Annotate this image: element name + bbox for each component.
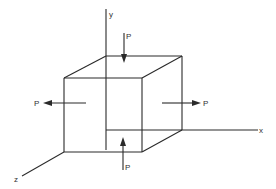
cube-edge-top-left-depth xyxy=(64,56,106,78)
y-axis-label: y xyxy=(109,10,113,19)
arrow-down-icon xyxy=(121,54,127,63)
force-bottom-label: P xyxy=(125,163,130,172)
cube-pressure-diagram: y x z P P P P xyxy=(0,0,276,189)
axes xyxy=(22,9,258,176)
x-axis-label: x xyxy=(259,126,263,135)
force-top-label: P xyxy=(126,32,131,41)
cube-edge-top-right-depth xyxy=(142,56,182,78)
z-axis xyxy=(22,152,64,176)
arrow-right-icon xyxy=(192,100,201,106)
force-right-label: P xyxy=(203,99,208,108)
arrow-up-icon xyxy=(120,137,126,146)
cube-edge-bottom-right-depth xyxy=(142,130,182,152)
z-axis-label: z xyxy=(14,175,18,184)
arrow-left-icon xyxy=(43,100,52,106)
force-left-label: P xyxy=(34,99,39,108)
